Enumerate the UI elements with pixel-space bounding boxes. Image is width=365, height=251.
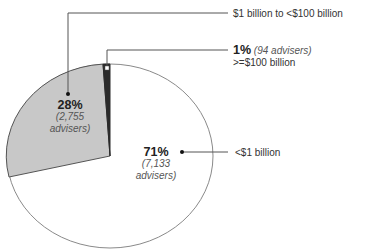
callout-dot-mid: [66, 92, 70, 96]
pct-71: 71%: [130, 146, 182, 158]
callout-marker-large: [105, 66, 109, 70]
count-28-line2: advisers): [43, 123, 97, 135]
pct-28: 28%: [43, 99, 97, 111]
label-28: 28% (2,755 advisers): [43, 99, 97, 135]
count-71-line2: advisers): [130, 170, 182, 182]
legend-mid: $1 billion to <$100 billion: [233, 8, 343, 20]
legend-small: <$1 billion: [235, 147, 280, 159]
legend-large-count: (94 advisers): [254, 45, 312, 56]
label-71: 71% (7,133 advisers): [130, 146, 182, 182]
legend-large: 1% (94 advisers) >=$100 billion: [233, 44, 312, 69]
legend-large-label: >=$100 billion: [233, 57, 312, 69]
legend-large-pct: 1%: [233, 43, 251, 57]
count-28-line1: (2,755: [43, 111, 97, 123]
count-71-line1: (7,133: [130, 158, 182, 170]
